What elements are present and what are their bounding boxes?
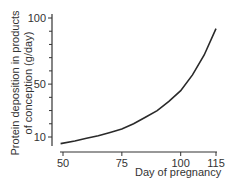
y-tick-label: 10 [34,131,46,143]
y-tick-label: 50 [34,78,46,90]
x-tick-label: 75 [116,157,128,169]
protein-deposition-curve [61,29,216,144]
x-tick-label: 50 [57,157,69,169]
y-axis-label-line2: of conception (g/day) [22,0,35,173]
y-axis-label: Protein deposition in products of concep… [9,0,35,173]
line-chart: 1050100 5075100115 [0,0,236,186]
y-axis-label-line1: Protein deposition in products [9,0,22,173]
x-axis-label: Day of pregnancy [135,166,221,178]
